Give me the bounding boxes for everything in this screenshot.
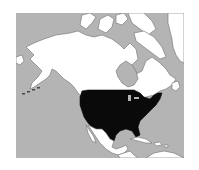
map-frame [16, 13, 184, 158]
puerto-rico [164, 145, 168, 147]
north-america-map [16, 13, 184, 158]
